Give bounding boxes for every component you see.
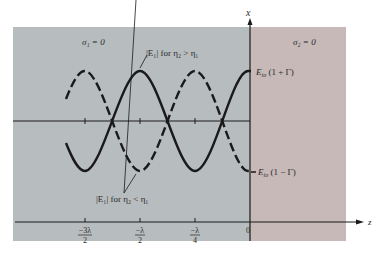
- min-field-label: Eio (1 − Γ): [257, 167, 296, 178]
- dashed-curve-label: |E₁| for η₂ < η₁: [96, 194, 149, 204]
- origin-label: 0: [246, 226, 250, 235]
- region-2-medium: [250, 27, 346, 241]
- tick-label-lambda-2-den: 2: [138, 236, 142, 245]
- x-axis-arrow-icon: [248, 18, 253, 25]
- sigma2-label: σ₂ = 0: [293, 37, 316, 47]
- tick-label-lambda-4-num: −λ: [191, 226, 200, 235]
- solid-curve-label: |E₁| for η₂ > η₁: [146, 48, 199, 58]
- tick-label-3lambda-2-den: 2: [83, 236, 87, 245]
- x-axis-label: x: [245, 7, 251, 18]
- tick-label-lambda-2-num: −λ: [136, 226, 145, 235]
- sigma1-label: σ₁ = 0: [82, 37, 105, 47]
- tick-label-3lambda-2-num: −3λ: [79, 226, 92, 235]
- standing-wave-diagram: x z −3λ 2 −λ 2 −λ 4 0 σ₁ = 0 σ₂ = 0 |E₁|…: [0, 0, 388, 254]
- z-axis-label: z: [367, 217, 372, 227]
- max-field-label: Eio (1 + Γ): [255, 67, 294, 78]
- region-1-medium: [13, 27, 250, 241]
- tick-label-lambda-4-den: 4: [193, 236, 197, 245]
- z-axis-arrow-icon: [356, 220, 364, 225]
